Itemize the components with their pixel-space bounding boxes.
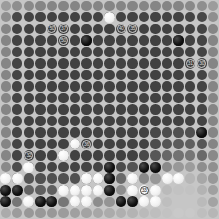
heatmap-cell[interactable] (150, 35, 160, 45)
heatmap-cell[interactable] (47, 173, 57, 183)
heatmap-cell[interactable] (35, 81, 45, 91)
heatmap-cell[interactable] (162, 70, 172, 80)
heatmap-cell[interactable] (104, 1, 114, 11)
heatmap-cell[interactable] (12, 81, 22, 91)
heatmap-cell[interactable] (116, 116, 126, 126)
heatmap-cell[interactable] (1, 93, 11, 103)
heatmap-cell[interactable] (58, 208, 68, 218)
heatmap-cell[interactable] (35, 208, 45, 218)
heatmap-cell[interactable] (81, 24, 91, 34)
go-stone-white[interactable] (70, 185, 81, 196)
heatmap-cell[interactable] (127, 35, 137, 45)
heatmap-cell[interactable] (35, 104, 45, 114)
go-stone-black[interactable] (104, 185, 115, 196)
go-stone-white[interactable] (12, 173, 23, 184)
heatmap-cell[interactable] (12, 104, 22, 114)
heatmap-cell[interactable] (162, 35, 172, 45)
heatmap-cell[interactable] (150, 93, 160, 103)
heatmap-cell[interactable] (24, 12, 34, 22)
move-number-marker[interactable]: 36 (82, 140, 91, 149)
heatmap-cell[interactable] (162, 93, 172, 103)
heatmap-cell[interactable] (58, 81, 68, 91)
heatmap-cell[interactable] (93, 150, 103, 160)
heatmap-cell[interactable] (93, 35, 103, 45)
heatmap-cell[interactable] (173, 185, 183, 195)
heatmap-cell[interactable] (162, 185, 172, 195)
go-stone-black[interactable] (35, 196, 46, 207)
heatmap-cell[interactable] (35, 116, 45, 126)
heatmap-cell[interactable] (173, 12, 183, 22)
heatmap-cell[interactable] (185, 127, 195, 137)
heatmap-cell[interactable] (173, 24, 183, 34)
go-stone-white[interactable] (23, 162, 34, 173)
heatmap-cell[interactable] (197, 81, 207, 91)
heatmap-cell[interactable] (162, 197, 172, 207)
heatmap-cell[interactable] (1, 70, 11, 80)
heatmap-cell[interactable] (1, 104, 11, 114)
heatmap-cell[interactable] (47, 93, 57, 103)
heatmap-cell[interactable] (58, 127, 68, 137)
heatmap-cell[interactable] (150, 58, 160, 68)
heatmap-cell[interactable] (58, 139, 68, 149)
heatmap-cell[interactable] (104, 116, 114, 126)
heatmap-cell[interactable] (81, 208, 91, 218)
heatmap-cell[interactable] (35, 139, 45, 149)
heatmap-cell[interactable] (35, 58, 45, 68)
heatmap-cell[interactable] (58, 70, 68, 80)
heatmap-cell[interactable] (12, 24, 22, 34)
heatmap-cell[interactable] (24, 81, 34, 91)
go-stone-black[interactable] (150, 162, 161, 173)
heatmap-cell[interactable] (208, 127, 218, 137)
heatmap-cell[interactable] (24, 185, 34, 195)
heatmap-cell[interactable] (150, 139, 160, 149)
heatmap-cell[interactable] (93, 208, 103, 218)
heatmap-cell[interactable] (35, 150, 45, 160)
heatmap-cell[interactable] (93, 81, 103, 91)
heatmap-cell[interactable] (150, 12, 160, 22)
heatmap-cell[interactable] (47, 12, 57, 22)
heatmap-cell[interactable] (139, 24, 149, 34)
heatmap-cell[interactable] (12, 58, 22, 68)
heatmap-cell[interactable] (173, 150, 183, 160)
heatmap-cell[interactable] (93, 139, 103, 149)
heatmap-cell[interactable] (70, 12, 80, 22)
heatmap-cell[interactable] (208, 173, 218, 183)
heatmap-cell[interactable] (70, 162, 80, 172)
heatmap-cell[interactable] (197, 1, 207, 11)
heatmap-cell[interactable] (208, 116, 218, 126)
heatmap-cell[interactable] (127, 81, 137, 91)
heatmap-cell[interactable] (139, 35, 149, 45)
heatmap-cell[interactable] (162, 104, 172, 114)
heatmap-cell[interactable] (127, 116, 137, 126)
heatmap-cell[interactable] (12, 35, 22, 45)
heatmap-cell[interactable] (104, 139, 114, 149)
heatmap-cell[interactable] (185, 104, 195, 114)
heatmap-cell[interactable] (173, 127, 183, 137)
heatmap-cell[interactable] (12, 150, 22, 160)
heatmap-cell[interactable] (185, 197, 195, 207)
heatmap-cell[interactable] (197, 47, 207, 57)
go-stone-white[interactable] (162, 173, 173, 184)
heatmap-cell[interactable] (162, 24, 172, 34)
heatmap-cell[interactable] (116, 162, 126, 172)
heatmap-cell[interactable] (208, 12, 218, 22)
heatmap-cell[interactable] (197, 173, 207, 183)
heatmap-cell[interactable] (104, 24, 114, 34)
heatmap-cell[interactable] (127, 139, 137, 149)
heatmap-cell[interactable] (70, 70, 80, 80)
go-stone-white[interactable] (127, 173, 138, 184)
heatmap-cell[interactable] (70, 93, 80, 103)
heatmap-cell[interactable] (81, 93, 91, 103)
heatmap-cell[interactable] (35, 173, 45, 183)
go-stone-white[interactable] (93, 185, 104, 196)
heatmap-cell[interactable] (197, 12, 207, 22)
heatmap-cell[interactable] (197, 139, 207, 149)
heatmap-cell[interactable] (93, 24, 103, 34)
heatmap-cell[interactable] (116, 12, 126, 22)
heatmap-cell[interactable] (150, 104, 160, 114)
heatmap-cell[interactable] (1, 162, 11, 172)
heatmap-cell[interactable] (70, 116, 80, 126)
go-stone-black[interactable] (127, 196, 138, 207)
heatmap-cell[interactable] (24, 127, 34, 137)
heatmap-cell[interactable] (173, 81, 183, 91)
